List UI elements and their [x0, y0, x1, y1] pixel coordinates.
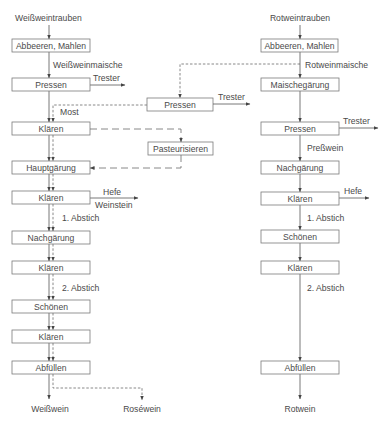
white-step-klaeren-3: Klären: [12, 261, 90, 274]
red-step-maischegaerung: Maischegärung: [261, 78, 339, 91]
white-grapes-input-label: Weißweintrauben: [15, 13, 82, 23]
red-maische-label: Rotweinmaische: [305, 60, 368, 70]
svg-text:Klären: Klären: [39, 263, 64, 273]
red-step-abbeeren: Abbeeren, Mahlen: [261, 39, 338, 52]
rose-step-pasteurisieren: Pasteurisieren: [148, 142, 213, 155]
svg-text:Klären: Klären: [39, 124, 64, 134]
white-abstich2-label: 2. Abstich: [62, 283, 99, 293]
svg-text:Hauptgärung: Hauptgärung: [26, 163, 76, 173]
svg-text:Klären: Klären: [288, 194, 313, 204]
red-step-klaeren-1: Klären: [261, 192, 339, 205]
rose-trester-label: Trester: [218, 92, 245, 102]
white-step-klaeren-2: Klären: [12, 191, 90, 204]
red-step-pressen: Pressen: [261, 122, 339, 135]
white-weinstein-label: Weinstein: [95, 200, 133, 210]
svg-text:Pressen: Pressen: [164, 100, 196, 110]
red-trester-label: Trester: [343, 116, 370, 126]
white-step-klaeren-4: Klären: [12, 330, 90, 343]
svg-text:Abfüllen: Abfüllen: [284, 363, 315, 373]
svg-text:Pressen: Pressen: [35, 80, 67, 90]
wine-production-flow-diagram: Weißweintrauben: [0, 0, 387, 422]
red-step-klaeren-2: Klären: [261, 261, 339, 274]
rose-wine-output-label: Roséwein: [123, 404, 161, 414]
white-step-hauptgaerung: Hauptgärung: [12, 161, 90, 174]
to-pasteurize-line: [90, 129, 181, 142]
most-label: Most: [60, 107, 79, 117]
white-wine-column: Weißweintrauben: [12, 13, 161, 414]
svg-text:Nachgärung: Nachgärung: [277, 163, 324, 173]
white-step-abfuellen: Abfüllen: [12, 361, 90, 374]
white-step-abbeeren: Abbeeren, Mahlen: [12, 39, 90, 52]
red-step-schoenen: Schönen: [261, 230, 339, 243]
white-abstich1-label: 1. Abstich: [62, 213, 99, 223]
white-step-klaeren-1: Klären: [12, 122, 90, 135]
red-grapes-input-label: Rotweintrauben: [270, 13, 330, 23]
white-step-nachgaerung: Nachgärung: [12, 231, 90, 244]
svg-text:Abbeeren, Mahlen: Abbeeren, Mahlen: [16, 41, 86, 51]
rose-step-pressen: Pressen: [147, 98, 213, 111]
red-step-abfuellen: Abfüllen: [261, 361, 339, 374]
svg-text:Pasteurisieren: Pasteurisieren: [153, 144, 208, 154]
svg-text:Nachgärung: Nachgärung: [28, 233, 75, 243]
svg-text:Maischegärung: Maischegärung: [271, 80, 330, 90]
white-maische-label: Weißweinmaische: [53, 60, 123, 70]
svg-text:Schönen: Schönen: [34, 302, 68, 312]
svg-text:Klären: Klären: [288, 263, 313, 273]
svg-text:Klären: Klären: [39, 193, 64, 203]
rose-dashed-flow-lines: [53, 105, 147, 400]
white-trester-label: Trester: [93, 73, 120, 83]
red-wine-column: Rotweintrauben Rotweinmaische Preßwein 1…: [261, 13, 378, 414]
red-abstich2-label: 2. Abstich: [307, 283, 344, 293]
svg-text:Abbeeren, Mahlen: Abbeeren, Mahlen: [264, 41, 334, 51]
svg-text:Schönen: Schönen: [283, 232, 317, 242]
svg-text:Abfüllen: Abfüllen: [35, 363, 66, 373]
white-wine-output-label: Weißwein: [31, 404, 69, 414]
presswein-label: Preßwein: [307, 143, 344, 153]
white-step-pressen: Pressen: [12, 78, 90, 91]
svg-text:Klären: Klären: [39, 332, 64, 342]
red-step-nachgaerung: Nachgärung: [261, 161, 339, 174]
from-pasteurize-line: [90, 155, 181, 168]
svg-text:Pressen: Pressen: [284, 124, 316, 134]
red-abstich1-label: 1. Abstich: [307, 213, 344, 223]
red-wine-output-label: Rotwein: [284, 404, 315, 414]
white-step-schoenen: Schönen: [12, 300, 90, 313]
white-hefe-label: Hefe: [103, 187, 121, 197]
red-hefe-label: Hefe: [344, 186, 362, 196]
